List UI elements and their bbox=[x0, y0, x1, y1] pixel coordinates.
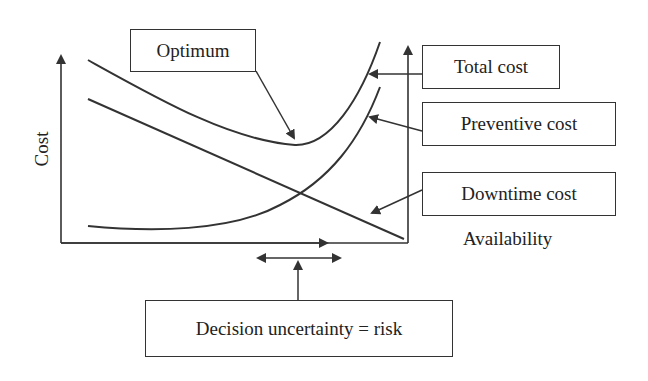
total-cost-label: Total cost bbox=[422, 45, 560, 89]
preventive-cost-arrow bbox=[370, 117, 422, 131]
downtime-cost-arrow bbox=[372, 190, 422, 213]
y-axis-label: Cost bbox=[31, 129, 53, 169]
optimum-arrow bbox=[256, 71, 294, 138]
x-axis-label: Availability bbox=[463, 228, 552, 250]
downtime-cost-label: Downtime cost bbox=[422, 172, 616, 216]
optimum-label: Optimum bbox=[130, 29, 256, 72]
preventive-cost-label: Preventive cost bbox=[422, 102, 616, 146]
risk-label: Decision uncertainty = risk bbox=[145, 300, 453, 357]
